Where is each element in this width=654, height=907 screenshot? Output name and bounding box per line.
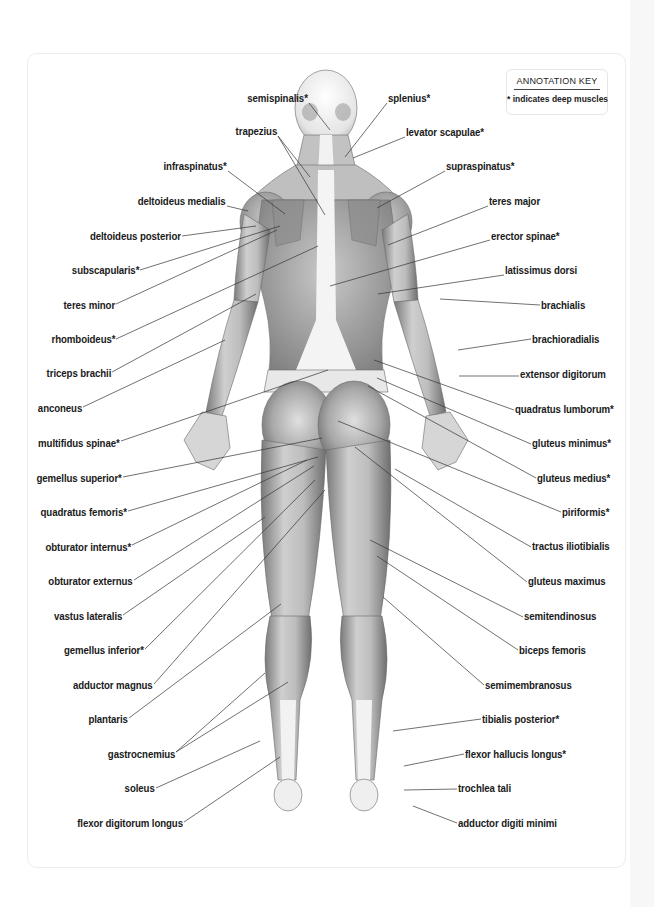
label-tractus-iliotibialis: tractus iliotibialis <box>532 540 610 552</box>
label-triceps-brachii: triceps brachii <box>46 367 111 379</box>
label-piriformis: piriformis* <box>562 506 609 518</box>
leader-line-levator-scapulae <box>353 137 405 158</box>
label-gluteus-minimus: gluteus minimus* <box>532 437 611 449</box>
label-deltoideus-medialis: deltoideus medialis <box>138 195 226 207</box>
label-adductor-digiti-minimi: adductor digiti minimi <box>458 817 557 829</box>
label-deltoideus-posterior: deltoideus posterior <box>90 230 181 242</box>
label-rhomboideus: rhomboideus* <box>51 333 115 345</box>
label-latissimus-dorsi: latissimus dorsi <box>505 264 577 276</box>
leader-line-gastrocnemius <box>176 682 288 752</box>
label-semitendinosus: semitendinosus <box>524 610 596 622</box>
leader-line-adductor-digiti-minimi <box>413 806 457 823</box>
annotation-key: ANNOTATION KEY * indicates deep muscles <box>506 69 608 115</box>
leader-line-tibialis-posterior <box>393 719 481 731</box>
leader-line-gastrocnemius <box>176 673 265 752</box>
leader-line-flexor-hallucis-longus <box>404 754 464 766</box>
label-subscapularis: subscapularis* <box>72 264 139 276</box>
annotation-key-divider <box>514 89 600 90</box>
label-teres-minor: teres minor <box>63 299 115 311</box>
label-infraspinatus: infraspinatus* <box>164 160 227 172</box>
leader-line-biceps-femoris <box>377 556 518 650</box>
label-supraspinatus: supraspinatus* <box>446 160 515 172</box>
label-gluteus-medius: gluteus medius* <box>537 472 610 484</box>
right-forearm <box>394 300 446 416</box>
label-semispinalis: semispinalis* <box>247 92 308 104</box>
label-trochlea-tali: trochlea tali <box>458 782 511 794</box>
annotation-key-title: ANNOTATION KEY <box>507 76 607 86</box>
label-adductor-magnus: adductor magnus <box>73 679 153 691</box>
leader-line-brachialis <box>440 299 540 305</box>
label-levator-scapulae: levator scapulae* <box>406 126 484 138</box>
label-teres-major: teres major <box>489 195 540 207</box>
left-heel <box>274 779 302 811</box>
label-trapezius: trapezius <box>235 125 277 137</box>
body-figure <box>184 70 468 811</box>
left-thigh <box>261 440 326 620</box>
label-flexor-digitorum-longus: flexor digitorum longus <box>77 817 183 829</box>
label-gastrocnemius: gastrocnemius <box>107 748 175 760</box>
label-extensor-digitorum: extensor digitorum <box>520 368 606 380</box>
label-obturator-externus: obturator externus <box>49 575 133 587</box>
leader-line-tractus-iliotibialis <box>395 469 531 547</box>
label-tibialis-posterior: tibialis posterior* <box>482 713 559 725</box>
label-obturator-internus: obturator internus* <box>45 541 131 553</box>
muscle-figure-illustration <box>0 0 654 907</box>
label-splenius: splenius* <box>388 92 430 104</box>
label-quadratus-femoris: quadratus femoris* <box>41 506 127 518</box>
leader-line-gluteus-medius <box>368 386 536 478</box>
label-brachioradialis: brachioradialis <box>532 333 599 345</box>
label-biceps-femoris: biceps femoris <box>519 644 586 656</box>
label-anconeus: anconeus <box>38 402 82 414</box>
left-forearm <box>206 300 258 416</box>
leader-line-semimembranosus <box>383 597 484 685</box>
label-plantaris: plantaris <box>89 713 128 725</box>
label-quadratus-lumborum: quadratus lumborum* <box>515 403 614 415</box>
leader-line-brachioradialis <box>458 339 531 350</box>
annotation-key-text: * indicates deep muscles <box>507 94 607 104</box>
right-hand <box>422 412 468 470</box>
label-flexor-hallucis-longus: flexor hallucis longus* <box>465 748 566 760</box>
leader-line-flexor-digitorum-longus <box>184 757 280 822</box>
leader-line-trochlea-tali <box>404 789 457 790</box>
label-gemellus-superior: gemellus superior* <box>37 472 122 484</box>
label-vastus-lateralis: vastus lateralis <box>54 610 122 622</box>
right-heel <box>350 779 378 811</box>
label-gemellus-inferior: gemellus inferior* <box>64 644 144 656</box>
label-soleus: soleus <box>125 782 155 794</box>
left-hand <box>184 412 230 470</box>
label-multifidus-spinae: multifidus spinae* <box>38 437 120 449</box>
label-gluteus-maximus: gluteus maximus <box>528 575 606 587</box>
label-semimembranosus: semimembranosus <box>485 679 572 691</box>
label-erector-spinae: erector spinae* <box>491 230 559 242</box>
right-thigh <box>326 440 391 620</box>
label-brachialis: brachialis <box>541 299 585 311</box>
